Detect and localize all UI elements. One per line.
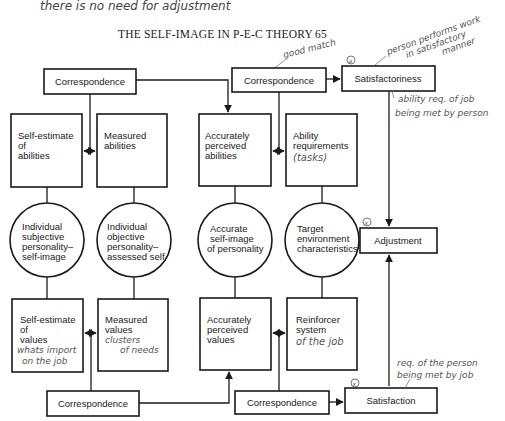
page-number: 65 <box>315 28 327 40</box>
svg-text:being met by person: being met by person <box>395 108 489 118</box>
svg-text:self-image: self-image <box>22 251 66 262</box>
svg-text:of personality: of personality <box>207 243 264 254</box>
connector-top-left-to-perceived-abilities <box>136 80 228 112</box>
correspondence-top-mid: Correspondence <box>232 68 326 92</box>
circled-a-mark: a <box>347 56 355 64</box>
annotation-tasks: (tasks) <box>293 152 327 163</box>
svg-text:Correspondence: Correspondence <box>244 75 314 86</box>
circled-x-mark-top: x <box>363 218 371 226</box>
svg-text:on the job: on the job <box>22 356 68 366</box>
reinforcer-system-box: Reinforcer system of the job <box>287 298 357 370</box>
annotation-no-adjustment: there is no need for adjustment <box>40 0 232 13</box>
svg-text:Self-estimate: Self-estimate <box>20 314 75 325</box>
self-estimate-abilities-box: Self-estimate of abilities <box>11 114 82 187</box>
svg-text:Adjustment: Adjustment <box>374 235 422 246</box>
svg-text:system: system <box>296 324 326 335</box>
svg-text:Correspondence: Correspondence <box>247 397 317 408</box>
svg-text:abilities: abilities <box>104 140 136 151</box>
svg-text:requirements: requirements <box>293 140 349 151</box>
person-performs-line1: person performs work <box>384 13 482 57</box>
svg-text:values: values <box>105 324 133 335</box>
annotation-of-the-job: of the job <box>296 336 344 347</box>
annotation-whats-import: whats import <box>17 345 77 355</box>
accurately-perceived-abilities-box: Accurately perceived abilities <box>199 114 271 186</box>
svg-text:x: x <box>364 219 369 226</box>
individual-objective-circle: Individual objective personality– assess… <box>97 203 171 277</box>
svg-text:of needs: of needs <box>120 345 159 355</box>
svg-text:Satisfactoriness: Satisfactoriness <box>354 73 421 84</box>
svg-text:values: values <box>207 334 235 345</box>
annotation-clusters: clusters <box>105 335 141 345</box>
adjustment-box: Adjustment <box>360 228 437 253</box>
svg-text:being met by job: being met by job <box>397 370 474 380</box>
satisfaction-box: Satisfaction <box>345 388 437 413</box>
satisfactoriness-box: Satisfactoriness <box>342 66 435 91</box>
annotation-req-person: req. of the person being met by job <box>397 358 478 388</box>
svg-text:abilities: abilities <box>205 150 237 161</box>
target-environment-circle: Target environment characteristics <box>285 203 359 277</box>
svg-text:Satisfaction: Satisfaction <box>366 395 415 406</box>
svg-text:req. of the person: req. of the person <box>397 358 478 368</box>
annotation-good-match: good match <box>272 37 337 70</box>
accurately-perceived-values-box: Accurately perceived values <box>200 298 271 370</box>
svg-text:x: x <box>352 380 357 387</box>
correspondence-top-left: Correspondence <box>44 69 136 94</box>
svg-text:Correspondence: Correspondence <box>55 76 125 87</box>
measured-abilities-box: Measured abilities <box>97 114 167 187</box>
svg-text:values: values <box>20 334 48 345</box>
accurate-self-image-circle: Accurate self-image of personality <box>198 203 272 277</box>
correspondence-bottom-left: Correspondence <box>47 391 139 416</box>
annotation-ability-req: ability req. of job being met by person <box>392 91 489 118</box>
annotation-person-performs: person performs work in satisfactory man… <box>374 13 483 66</box>
svg-text:characteristics: characteristics <box>297 243 358 254</box>
measured-values-box: Measured values clusters of needs <box>98 299 168 371</box>
svg-text:abilities: abilities <box>18 150 50 161</box>
individual-subjective-circle: Individual subjective personality– self-… <box>10 203 84 277</box>
svg-text:Correspondence: Correspondence <box>58 398 128 409</box>
circled-x-mark-bottom: x <box>351 379 359 387</box>
svg-text:a: a <box>349 57 353 64</box>
svg-text:Self-estimate: Self-estimate <box>18 130 73 141</box>
svg-text:assessed self: assessed self <box>107 251 165 262</box>
pec-diagram: there is no need for adjustment THE SELF… <box>0 0 505 421</box>
ability-requirements-box: Ability requirements (tasks) <box>286 114 357 186</box>
page-header-title: THE SELF-IMAGE IN P-E-C THEORY <box>118 28 313 40</box>
correspondence-bottom-mid: Correspondence <box>235 391 329 414</box>
self-estimate-values-box: Self-estimate of values whats import on … <box>12 299 83 372</box>
connector-bottom-left-to-perceived-values <box>139 372 229 403</box>
good-match-text: good match <box>282 37 337 60</box>
svg-text:ability req. of job: ability req. of job <box>398 94 475 104</box>
